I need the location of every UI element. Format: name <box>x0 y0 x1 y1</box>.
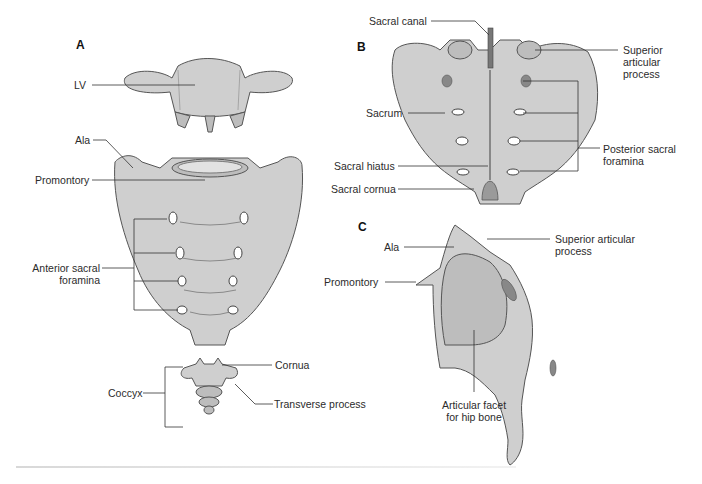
coccyx-illustration <box>181 358 237 414</box>
label-cornua: Cornua <box>275 359 309 371</box>
label-ala-c: Ala <box>384 241 399 253</box>
label-sacrum: Sacrum <box>366 107 402 119</box>
sacrum-coccyx-figure: A B C LV Ala Promontory Anterior sacral … <box>0 0 702 484</box>
label-coccyx: Coccyx <box>108 387 142 399</box>
panel-letter-c: C <box>358 220 367 234</box>
label-ala-a: Ala <box>75 134 90 146</box>
label-transverse-process: Transverse process <box>274 398 366 410</box>
label-superior-articular-process-c: Superior articular process <box>555 233 635 257</box>
sacrum-posterior-illustration <box>392 28 597 204</box>
label-promontory-a: Promontory <box>35 174 89 186</box>
label-anterior-sacral-foramina: Anterior sacral foramina <box>20 262 100 286</box>
label-articular-facet: Articular facet for hip bone <box>424 399 524 423</box>
label-promontory-c: Promontory <box>324 276 378 288</box>
panel-letter-b: B <box>357 40 366 54</box>
label-sacral-hiatus: Sacral hiatus <box>334 160 395 172</box>
sacrum-lateral-illustration <box>416 225 556 465</box>
panel-letter-a: A <box>76 38 85 52</box>
sacrum-anterior-illustration <box>115 156 303 345</box>
label-sacral-canal: Sacral canal <box>369 15 427 27</box>
lumbar-vertebra-illustration <box>124 59 292 133</box>
label-superior-articular-process-b: Superior articular process <box>623 44 663 80</box>
label-posterior-sacral-foramina: Posterior sacral foramina <box>603 143 676 167</box>
bottom-separator <box>16 466 516 468</box>
label-lv: LV <box>74 79 86 91</box>
label-sacral-cornua: Sacral cornua <box>331 183 396 195</box>
